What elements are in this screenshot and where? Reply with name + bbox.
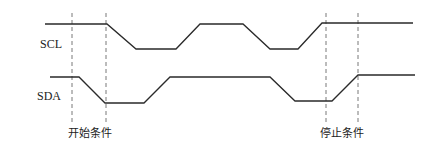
scl-label: SCL [40, 37, 62, 52]
stop-condition-caption: 停止条件 [320, 124, 364, 140]
start-condition-caption: 开始条件 [68, 124, 112, 140]
timing-diagram: SCL SDA 开始条件 停止条件 [0, 0, 422, 145]
sda-waveform [50, 75, 415, 103]
sda-label: SDA [37, 89, 61, 104]
